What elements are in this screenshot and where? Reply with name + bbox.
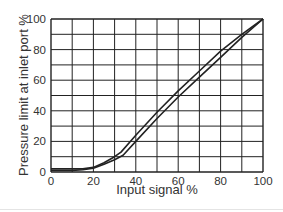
x-tick-label: 20: [87, 175, 100, 187]
y-tick-label: 20: [33, 135, 46, 147]
y-tick-label: 40: [33, 105, 46, 117]
x-tick-label: 100: [253, 175, 272, 187]
divider: [0, 209, 283, 210]
x-tick-label: 80: [214, 175, 227, 187]
x-tick-label: 0: [48, 175, 54, 187]
chart: 020406080100 020406080100 Input signal %…: [0, 0, 283, 212]
y-tick-label: 0: [40, 166, 46, 178]
y-tick-label: 60: [33, 74, 46, 86]
x-axis-label: Input signal %: [116, 182, 198, 197]
y-axis-label: Pressure limit at inlet port %: [16, 14, 31, 176]
y-tick-label: 80: [33, 44, 46, 56]
